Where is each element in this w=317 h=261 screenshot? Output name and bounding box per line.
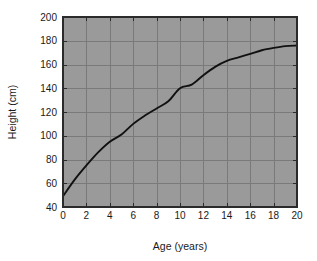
chart-figure: 02468101214161820 4060801001201401601802… — [0, 0, 317, 261]
y-axis-title: Height (cm) — [6, 85, 18, 139]
height-vs-age-line-chart: 02468101214161820 4060801001201401601802… — [0, 0, 317, 261]
x-tick-label-4: 4 — [107, 210, 113, 221]
x-axis-title: Age (years) — [153, 240, 207, 252]
y-tick-label-120: 120 — [40, 107, 57, 118]
y-tick-label-100: 100 — [40, 130, 57, 141]
y-tick-label-60: 60 — [46, 178, 58, 189]
x-tick-label-0: 0 — [60, 210, 66, 221]
y-tick-label-200: 200 — [40, 12, 57, 23]
y-tick-label-180: 180 — [40, 35, 57, 46]
x-tick-label-8: 8 — [154, 210, 160, 221]
x-tick-label-14: 14 — [221, 210, 233, 221]
x-tick-label-16: 16 — [245, 210, 257, 221]
y-tick-label-80: 80 — [46, 154, 58, 165]
x-tick-label-20: 20 — [291, 210, 303, 221]
x-tick-label-2: 2 — [84, 210, 90, 221]
x-tick-label-18: 18 — [268, 210, 280, 221]
x-tick-label-10: 10 — [174, 210, 186, 221]
x-tick-label-12: 12 — [198, 210, 210, 221]
y-tick-label-160: 160 — [40, 59, 57, 70]
x-tick-label-6: 6 — [130, 210, 136, 221]
y-tick-label-40: 40 — [46, 202, 58, 213]
y-tick-label-140: 140 — [40, 83, 57, 94]
